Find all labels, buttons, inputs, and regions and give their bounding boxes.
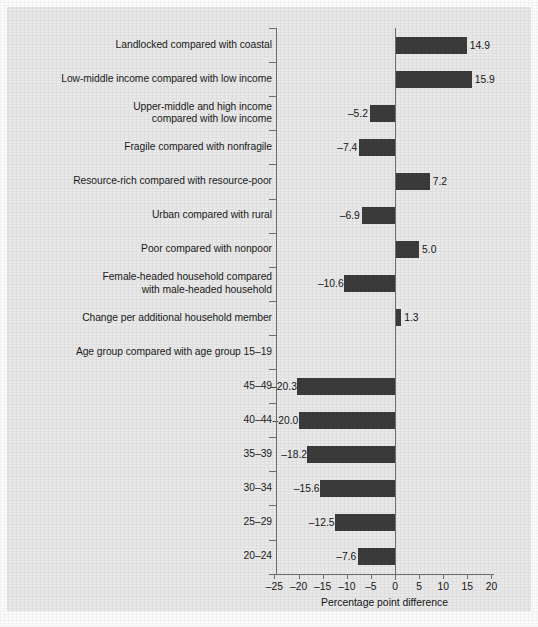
chart-row: 25–29–12.5	[8, 505, 538, 539]
chart-row: Female-headed household comparedwith mal…	[8, 267, 538, 301]
category-label: Poor compared with nonpoor	[30, 243, 272, 255]
category-label: Landlocked compared with coastal	[30, 39, 272, 51]
category-label-line: Resource-rich compared with resource-poo…	[30, 175, 272, 187]
x-axis-tick	[371, 574, 372, 579]
category-label: 30–34	[30, 482, 272, 494]
category-label-line: Poor compared with nonpoor	[30, 243, 272, 255]
category-label-line: compared with low income	[30, 113, 272, 125]
category-label: 20–24	[30, 550, 272, 562]
category-label: 25–29	[30, 516, 272, 528]
category-label-line: Age group compared with age group 15–19	[30, 346, 272, 358]
category-label-line: 40–44	[30, 414, 272, 426]
chart-row: Urban compared with rural–6.9	[8, 199, 538, 233]
bar-value-label: –6.9	[336, 207, 360, 224]
category-label-line: 35–39	[30, 448, 272, 460]
bar-value-label: 14.9	[470, 37, 490, 54]
category-label: Resource-rich compared with resource-poo…	[30, 175, 272, 187]
chart-row: Resource-rich compared with resource-poo…	[8, 164, 538, 198]
bar	[395, 71, 472, 88]
category-label-line: 30–34	[30, 482, 272, 494]
chart-row: Low-middle income compared with low inco…	[8, 62, 538, 96]
bar	[320, 480, 395, 497]
x-axis-tick	[347, 574, 348, 579]
bar	[344, 275, 395, 292]
category-label: 45–49	[30, 380, 272, 392]
x-axis-tick	[274, 574, 275, 579]
category-label-line: Upper-middle and high income	[30, 101, 272, 113]
x-axis-tick	[395, 574, 396, 579]
bar-value-label: 5.0	[422, 241, 436, 258]
category-label-line: Urban compared with rural	[30, 209, 272, 221]
x-axis-title: Percentage point difference	[276, 597, 493, 608]
x-axis-line	[276, 574, 494, 575]
chart-row: Fragile compared with nonfragile–7.4	[8, 130, 538, 164]
bar	[395, 241, 419, 258]
bar-value-label: –18.2	[281, 446, 305, 463]
bar-value-label: 1.3	[404, 309, 418, 326]
chart-row: Age group compared with age group 15–19	[8, 335, 538, 369]
bar-value-label: –15.6	[294, 480, 318, 497]
x-axis-tick	[323, 574, 324, 579]
figure-canvas: Landlocked compared with coastal14.9Low-…	[0, 0, 538, 627]
category-label-line: Female-headed household compared	[30, 271, 272, 283]
x-axis-tick	[491, 574, 492, 579]
chart-row: 40–44–20.0	[8, 403, 538, 437]
chart-row: 30–34–15.6	[8, 471, 538, 505]
bar-value-label: –7.6	[332, 548, 356, 565]
chart-row: 45–49–20.3	[8, 369, 538, 403]
bar-value-label: –7.4	[333, 139, 357, 156]
bar-value-label: 7.2	[433, 173, 447, 190]
bar	[299, 412, 395, 429]
category-label: Urban compared with rural	[30, 209, 272, 221]
category-label-line: 45–49	[30, 380, 272, 392]
bar-value-label: 15.9	[475, 71, 495, 88]
x-axis-tick	[419, 574, 420, 579]
category-label: Change per additional household member	[30, 312, 272, 324]
chart-row: Upper-middle and high incomecompared wit…	[8, 96, 538, 130]
category-label-line: 20–24	[30, 550, 272, 562]
category-label: 40–44	[30, 414, 272, 426]
bar-value-label: –20.3	[271, 378, 295, 395]
chart-row: Change per additional household member1.…	[8, 301, 538, 335]
bar	[395, 173, 430, 190]
category-label-line: with male-headed household	[30, 284, 272, 296]
chart-row: Landlocked compared with coastal14.9	[8, 28, 538, 62]
category-label: Female-headed household comparedwith mal…	[30, 271, 272, 296]
category-label-line: Low-middle income compared with low inco…	[30, 73, 272, 85]
x-axis-tick	[443, 574, 444, 579]
category-label: Low-middle income compared with low inco…	[30, 73, 272, 85]
bar	[370, 105, 395, 122]
category-axis-line	[276, 28, 277, 574]
chart-panel: Landlocked compared with coastal14.9Low-…	[8, 8, 530, 610]
bar	[358, 548, 395, 565]
bar-value-label: –5.2	[344, 105, 368, 122]
chart-row: Poor compared with nonpoor5.0	[8, 233, 538, 267]
bar-value-label: –10.6	[318, 275, 342, 292]
zero-baseline	[395, 28, 396, 580]
bar	[395, 37, 467, 54]
category-label: Fragile compared with nonfragile	[30, 141, 272, 153]
category-label-line: 25–29	[30, 516, 272, 528]
x-axis-tick	[299, 574, 300, 579]
chart-row: 35–39–18.2	[8, 437, 538, 471]
category-label: 35–39	[30, 448, 272, 460]
category-label-line: Fragile compared with nonfragile	[30, 141, 272, 153]
x-axis-tick	[467, 574, 468, 579]
bar	[362, 207, 395, 224]
bar	[359, 139, 395, 156]
category-label-line: Change per additional household member	[30, 312, 272, 324]
bar	[335, 514, 395, 531]
bar	[297, 378, 395, 395]
chart-row: 20–24–7.6	[8, 540, 538, 574]
category-label: Upper-middle and high incomecompared wit…	[30, 101, 272, 126]
bar-value-label: –12.5	[309, 514, 333, 531]
x-axis-tick-label: 20	[476, 581, 506, 592]
category-label-line: Landlocked compared with coastal	[30, 39, 272, 51]
category-label: Age group compared with age group 15–19	[30, 346, 272, 358]
bar	[307, 446, 395, 463]
